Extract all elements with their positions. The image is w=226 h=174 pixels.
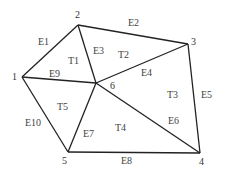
edge-e5 [188, 44, 200, 153]
edge-label: E4 [141, 67, 152, 78]
triangle-label: T4 [115, 122, 126, 133]
edge-labels-group: E1E2E3E4E5E6E7E8E9E10 [25, 17, 212, 166]
edge-e10 [22, 77, 68, 152]
edge-label: E10 [25, 117, 41, 128]
triangle-labels-group: T1T2T3T4T5 [57, 49, 178, 133]
edge-e8 [68, 152, 200, 153]
edge-label: E6 [168, 115, 179, 126]
triangle-label: T1 [68, 55, 79, 66]
edge-label: E7 [83, 128, 94, 139]
node-labels-group: 123456 [12, 9, 204, 167]
edge-label: E9 [49, 68, 60, 79]
triangle-label: T3 [167, 89, 178, 100]
node-label: 5 [62, 155, 67, 166]
triangle-label: T2 [118, 49, 129, 60]
mesh-diagram: E1E2E3E4E5E6E7E8E9E10 T1T2T3T4T5 123456 [0, 0, 226, 174]
triangle-label: T5 [57, 101, 68, 112]
edge-label: E8 [121, 155, 132, 166]
node-label: 2 [75, 9, 80, 20]
edge-label: E5 [201, 89, 212, 100]
edge-label: E1 [38, 36, 49, 47]
edge-e7 [68, 83, 96, 152]
edge-e6 [96, 83, 200, 153]
node-label: 3 [191, 36, 196, 47]
node-label: 1 [12, 71, 17, 82]
edge-label: E2 [128, 17, 139, 28]
node-label: 6 [110, 80, 115, 91]
edge-label: E3 [93, 45, 104, 56]
node-label: 4 [199, 156, 204, 167]
